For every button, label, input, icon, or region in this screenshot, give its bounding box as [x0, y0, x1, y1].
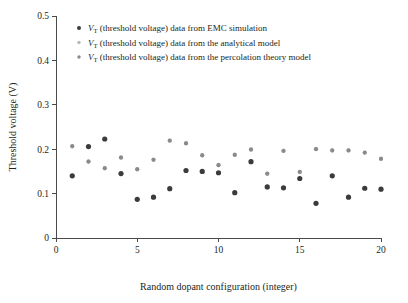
x-tick-label: 5: [135, 245, 140, 255]
data-point: [313, 201, 318, 206]
data-point: [86, 144, 91, 149]
data-point: [330, 148, 334, 152]
data-point: [183, 168, 188, 173]
legend-marker: [77, 41, 80, 44]
data-point: [118, 171, 123, 176]
x-tick-label: 15: [295, 245, 305, 255]
data-point: [265, 184, 270, 189]
data-point: [298, 170, 302, 174]
data-point: [216, 170, 221, 175]
data-point: [314, 147, 318, 151]
data-point: [200, 169, 205, 174]
y-tick-label: 0: [44, 233, 49, 243]
legend-marker: [77, 26, 81, 30]
y-tick-label: 0.3: [37, 100, 49, 110]
data-point: [265, 172, 269, 176]
data-point: [362, 186, 367, 191]
data-point: [184, 141, 188, 145]
data-point: [151, 195, 156, 200]
axis-lines: [56, 16, 382, 239]
data-points-group: [70, 136, 384, 206]
axis-labels-group: Random dopant configuration (integer)Thr…: [7, 83, 297, 293]
axes-group: 00.10.20.30.40.505101520: [37, 11, 386, 255]
data-point: [330, 173, 335, 178]
data-point: [379, 157, 383, 161]
data-point: [281, 185, 286, 190]
x-tick-label: 0: [54, 245, 59, 255]
data-point: [363, 151, 367, 155]
data-point: [168, 139, 172, 143]
data-point: [216, 163, 220, 167]
data-point: [102, 136, 107, 141]
chart-legend: VT (threshold voltage) data from EMC sim…: [77, 23, 311, 63]
data-point: [281, 149, 285, 153]
y-axis-title: Threshold voltage (V): [7, 83, 19, 172]
data-point: [86, 160, 90, 164]
legend-entry-label: VT (threshold voltage) data from EMC sim…: [88, 23, 267, 34]
y-tick-label: 0.1: [37, 189, 49, 199]
data-point: [135, 167, 139, 171]
y-tick-label: 0.5: [37, 11, 49, 21]
data-point: [249, 148, 253, 152]
x-axis-title: Random dopant configuration (integer): [140, 281, 297, 293]
data-point: [232, 190, 237, 195]
data-point: [70, 173, 75, 178]
x-tick-label: 10: [214, 245, 224, 255]
figure-container: 00.10.20.30.40.505101520 VT (threshold v…: [0, 0, 408, 303]
data-point: [297, 176, 302, 181]
data-point: [346, 195, 351, 200]
scatter-chart: 00.10.20.30.40.505101520 VT (threshold v…: [0, 0, 408, 303]
y-tick-label: 0.2: [37, 145, 49, 155]
data-point: [151, 158, 155, 162]
legend-entry-label: VT (threshold voltage) data from the per…: [88, 52, 311, 63]
data-point: [119, 156, 123, 160]
data-point: [378, 187, 383, 192]
data-point: [200, 153, 204, 157]
data-point: [346, 148, 350, 152]
x-tick-label: 20: [376, 245, 386, 255]
y-tick-label: 0.4: [37, 56, 49, 66]
data-point: [233, 153, 237, 157]
data-point: [70, 144, 74, 148]
legend-marker: [77, 55, 80, 58]
data-point: [248, 159, 253, 164]
data-point: [135, 197, 140, 202]
legend-entry-label: VT (threshold voltage) data from the ana…: [88, 38, 281, 49]
data-point: [167, 186, 172, 191]
data-point: [103, 166, 107, 170]
